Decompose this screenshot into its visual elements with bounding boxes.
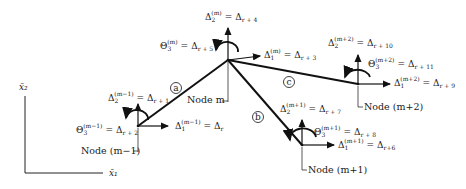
member-b-tag: b [253, 112, 264, 123]
svg-text:b: b [255, 112, 261, 122]
svg-text:a: a [173, 83, 179, 93]
t3-label: Θ3(m−1)=Δr + 2 [76, 122, 138, 136]
node-label: Node m [187, 94, 225, 105]
d1-label: Δ1(m+2)=Δr + 9 [394, 75, 455, 89]
rotation-arrow-icon [216, 42, 238, 52]
d2-label: Δ2(m)=Δr + 4 [205, 9, 257, 23]
d2-label: Δ2(m+1)=Δr + 7 [280, 101, 341, 115]
node-m: Δ2(m)=Δr + 4 Δ1(m)=Δr + 3 Θ3(m)=Δr + 5 N… [160, 9, 316, 105]
d2-label: Δ2(m+2)=Δr + 10 [328, 35, 393, 49]
node-label: Node (m+1) [308, 164, 367, 175]
axis-x2-label: x̄₂ [19, 82, 28, 92]
member-a-tag: a [171, 83, 182, 94]
node-m-plus-1: Δ2(m+1)=Δr + 7 Θ3(m+1)=Δr + 8 Δ1(m+1)=Δr… [280, 101, 395, 175]
member-c-tag: c [284, 77, 295, 88]
d1-label: Δ1(m)=Δr + 3 [264, 47, 316, 61]
d1-arrow-icon [228, 56, 260, 60]
d1-label: Δ1(m+1)=Δr+6 [338, 137, 395, 151]
t3-label: Θ3(m+2)=Δr + 11 [368, 56, 434, 70]
rotation-arrow-icon [126, 110, 148, 120]
node-label: Node (m+2) [364, 101, 423, 112]
t3-label: Θ3(m+1)=Δr + 8 [314, 124, 376, 138]
svg-text:c: c [286, 77, 291, 87]
t3-label: Θ3(m)=Δr + 5 [160, 38, 213, 52]
frame-diagram: x̄₂ x̄₁ a b c Δ2(m−1)=Δr + 1 Δ1(m−1)=Δr [0, 0, 466, 189]
node-label: Node (m−1) [81, 145, 140, 156]
d1-label: Δ1(m−1)=Δr [175, 118, 224, 132]
axis-x1-label: x̄₁ [109, 168, 118, 178]
global-axes: x̄₂ x̄₁ [19, 82, 118, 178]
node-m-plus-2: Δ2(m+2)=Δr + 10 Θ3(m+2)=Δr + 11 Δ1(m+2)=… [328, 35, 455, 112]
d2-label: Δ2(m−1)=Δr + 1 [108, 90, 169, 104]
